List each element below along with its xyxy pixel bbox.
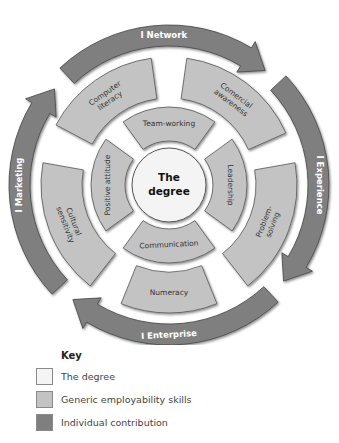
center-circle: The degree <box>132 148 206 222</box>
arrow-label-experience: I Experience <box>315 156 325 215</box>
center-label-line1: The <box>158 171 180 183</box>
swatch-individual <box>36 414 53 431</box>
middle-label-numeracy: Numeracy <box>150 288 189 297</box>
inner-label-leadership: Leadership <box>226 164 235 205</box>
swatch-generic <box>36 391 53 408</box>
inner-label-team-working: Team-working <box>142 119 196 128</box>
legend-label: Individual contribution <box>61 417 168 428</box>
legend-item-degree: The degree <box>36 367 115 385</box>
employability-diagram: The degree Team-workingLeadershipCommuni… <box>0 0 339 345</box>
center-label-line2: degree <box>148 185 190 197</box>
legend-label: The degree <box>61 371 115 382</box>
inner-segment-team-working <box>123 107 215 149</box>
legend-label: Generic employability skills <box>61 394 192 405</box>
inner-label-positive-attitude: Positive attitude <box>103 154 112 215</box>
legend-title: Key <box>61 350 82 361</box>
inner-segment-positive-attitude <box>91 139 133 231</box>
arrow-label-network: I Network <box>140 30 187 40</box>
swatch-degree <box>36 368 53 385</box>
arrow-label-marketing: I Marketing <box>14 158 24 213</box>
legend-item-individual: Individual contribution <box>36 413 168 431</box>
legend-item-generic: Generic employability skills <box>36 390 192 408</box>
inner-segment-leadership <box>205 139 247 231</box>
